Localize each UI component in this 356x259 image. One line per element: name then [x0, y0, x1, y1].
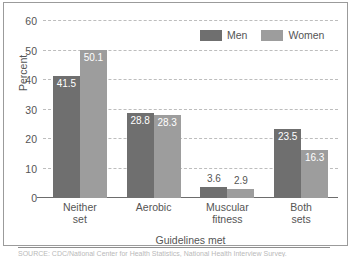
source-divider — [18, 247, 330, 248]
bar[interactable]: 16.3 — [301, 150, 328, 198]
chart-legend: Men Women — [200, 29, 324, 41]
bar-value-label: 16.3 — [305, 153, 324, 163]
bar-value-label: 41.5 — [57, 79, 76, 89]
bar-group: 41.550.1 — [43, 21, 117, 198]
y-tick-label: 0 — [31, 192, 37, 204]
women-swatch-icon — [261, 30, 283, 41]
x-axis-ticks: NeithersetAerobicMuscularfitnessBothsets — [43, 201, 338, 225]
y-tick-label: 10 — [25, 163, 37, 175]
legend-item-men: Men — [200, 29, 247, 41]
bar[interactable]: 3.6 — [200, 187, 227, 198]
bar[interactable]: 28.8 — [127, 113, 154, 198]
bar-slot: 23.5 — [274, 21, 301, 198]
bar-value-label: 2.9 — [234, 176, 248, 186]
bar-slot: 3.6 — [200, 21, 227, 198]
x-tick-label: Muscularfitness — [191, 201, 265, 225]
bar-group: 28.828.3 — [117, 21, 191, 198]
bar-value-label: 23.5 — [278, 132, 297, 142]
bar-value-label: 28.3 — [157, 118, 176, 128]
bar-value-label: 28.8 — [130, 116, 149, 126]
y-tick-label: 60 — [25, 15, 37, 27]
bar[interactable]: 2.9 — [227, 189, 254, 198]
bar-slot: 16.3 — [301, 21, 328, 198]
bar-slot: 2.9 — [227, 21, 254, 198]
bar[interactable]: 41.5 — [53, 76, 80, 198]
x-tick-label: Neitherset — [43, 201, 117, 225]
chart-figure: Percent 0102030405060 41.550.128.828.33.… — [3, 2, 348, 246]
source-note: SOURCE: CDC/National Center for Health S… — [18, 250, 348, 257]
legend-label-men: Men — [227, 29, 247, 41]
men-swatch-icon — [200, 30, 222, 41]
plot-area: 0102030405060 41.550.128.828.33.62.923.5… — [43, 21, 338, 198]
bar-slot: 28.8 — [127, 21, 154, 198]
x-tick-label: Bothsets — [264, 201, 338, 225]
y-tick-label: 50 — [25, 45, 37, 57]
bar-group: 3.62.9 — [191, 21, 265, 198]
bar-group: 23.516.3 — [264, 21, 338, 198]
x-axis-title: Guidelines met — [43, 234, 338, 246]
legend-label-women: Women — [288, 29, 324, 41]
bar-slot: 41.5 — [53, 21, 80, 198]
legend-item-women: Women — [261, 29, 324, 41]
bar-slot: 50.1 — [80, 21, 107, 198]
bar-slot: 28.3 — [154, 21, 181, 198]
y-tick-label: 30 — [25, 104, 37, 116]
bar[interactable]: 28.3 — [154, 115, 181, 198]
y-tick-label: 40 — [25, 74, 37, 86]
bar-value-label: 3.6 — [207, 174, 221, 184]
x-tick-label: Aerobic — [117, 201, 191, 225]
bar-value-label: 50.1 — [84, 53, 103, 63]
bar[interactable]: 23.5 — [274, 129, 301, 198]
bar-groups: 41.550.128.828.33.62.923.516.3 — [43, 21, 338, 198]
bar[interactable]: 50.1 — [80, 50, 107, 198]
y-tick-label: 20 — [25, 133, 37, 145]
